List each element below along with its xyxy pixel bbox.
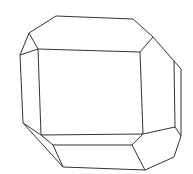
edge-KP (20, 49, 38, 55)
edge-LP (29, 33, 38, 49)
edge-LA (29, 16, 56, 33)
edge-DV (174, 61, 175, 127)
edge-CQ (140, 37, 153, 52)
edge-UI (53, 145, 63, 167)
edge-RV (143, 127, 175, 134)
polyhedron-diagram (0, 0, 193, 174)
edge-KL (20, 33, 29, 55)
edge-BC (133, 19, 153, 37)
edge-RS (41, 134, 143, 135)
edge-RT (132, 134, 143, 145)
edge-JK (20, 55, 23, 123)
edge-GH (145, 157, 174, 170)
edge-FG (174, 136, 181, 157)
edge-QR (140, 52, 143, 134)
edge-SP (38, 49, 41, 135)
edge-CD (153, 37, 174, 61)
edge-VF (175, 127, 181, 136)
polyhedron-drawing (0, 0, 193, 174)
edge-DE (174, 61, 181, 69)
edge-TH (132, 145, 145, 170)
edge-HI (63, 167, 145, 170)
edge-AB (56, 16, 133, 19)
edge-US (41, 135, 53, 145)
edge-PQ (38, 49, 140, 52)
